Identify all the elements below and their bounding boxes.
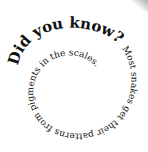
spiral-body: Most snakes get their patterns from pigm… (25, 44, 140, 141)
spiral-heading-text: Did you know? Most snakes get their patt… (4, 14, 139, 142)
spiral-heading: Did you know? (4, 14, 128, 67)
spiral-text-art: Did you know? Most snakes get their patt… (0, 0, 148, 152)
did-you-know-graphic: Did you know? Most snakes get their patt… (0, 0, 148, 152)
